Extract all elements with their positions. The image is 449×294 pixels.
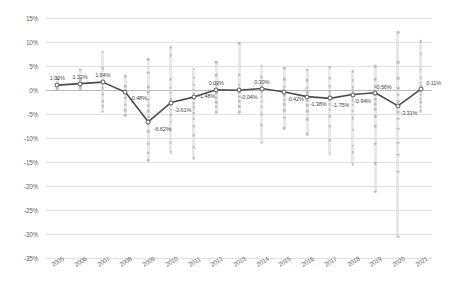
line-marker — [327, 96, 332, 101]
y-axis-tick-label: -35% — [24, 255, 38, 262]
data-label: 1.32% — [72, 74, 87, 80]
data-label: -0.42% — [287, 96, 304, 102]
line-marker — [214, 87, 219, 92]
line-marker — [305, 94, 310, 99]
line-marker — [78, 81, 83, 86]
x-axis-tick-label: 2011 — [187, 255, 202, 268]
line-marker — [259, 86, 264, 91]
y-axis-tick-label: -30% — [24, 231, 38, 238]
plot-area: 1.02%1.32%1.64%-0.48%-6.62%-2.61%-1.48%0… — [46, 18, 432, 258]
data-label: 0.03% — [209, 80, 224, 86]
data-label: -2.61% — [174, 107, 191, 113]
y-axis-tick-label: 15% — [26, 15, 38, 22]
data-label: 0.30% — [254, 79, 269, 85]
data-label: -0.04% — [241, 94, 258, 100]
y-axis-tick-label: -10% — [24, 135, 38, 142]
data-label: -0.56% — [375, 84, 392, 90]
line-marker — [373, 90, 378, 95]
y-axis-tick-label: 5% — [29, 63, 38, 70]
data-label: -0.48% — [130, 95, 147, 101]
y-axis-labels: 15%10%5%0%-5%-10%-15%-20%-25%-30%-35% — [0, 18, 42, 258]
trend-line — [46, 18, 432, 258]
x-axis-labels: 2005200620072008200920102011201220132014… — [46, 258, 432, 292]
chart-container: 15%10%5%0%-5%-10%-15%-20%-25%-30%-35% 1.… — [0, 0, 449, 294]
data-label: 1.64% — [95, 72, 110, 78]
line-marker — [146, 119, 151, 124]
line-marker — [395, 103, 400, 108]
data-label: -3.31% — [401, 110, 418, 116]
y-axis-tick-label: -5% — [27, 111, 38, 118]
y-axis-tick-label: 10% — [26, 39, 38, 46]
data-label: -1.75% — [332, 102, 349, 108]
line-marker — [237, 88, 242, 93]
line-marker — [168, 100, 173, 105]
y-axis-tick-label: -20% — [24, 183, 38, 190]
y-axis-tick-label: 0% — [29, 87, 38, 94]
data-label: -1.48% — [198, 93, 215, 99]
line-marker — [350, 92, 355, 97]
data-label: -1.38% — [310, 101, 327, 107]
y-axis-tick-label: -25% — [24, 207, 38, 214]
line-marker — [123, 90, 128, 95]
data-label: 0.11% — [426, 80, 441, 86]
line-marker — [100, 80, 105, 85]
data-label: 1.02% — [50, 75, 65, 81]
data-label: -0.94% — [354, 98, 371, 104]
data-label: -6.62% — [154, 126, 171, 132]
line-marker — [191, 95, 196, 100]
line-marker — [55, 83, 60, 88]
line-marker — [282, 90, 287, 95]
line-marker — [418, 87, 423, 92]
y-axis-tick-label: -15% — [24, 159, 38, 166]
